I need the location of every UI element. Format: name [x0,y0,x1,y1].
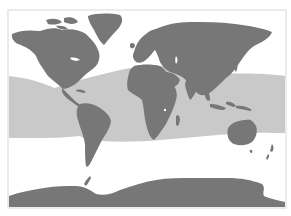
lake-victoria [164,109,166,111]
world-map [0,0,291,216]
